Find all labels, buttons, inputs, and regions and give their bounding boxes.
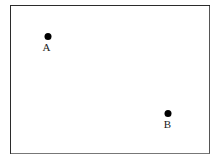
point-a: A	[44, 33, 51, 53]
point-a-label: A	[42, 42, 51, 53]
point-b-label: B	[164, 119, 172, 130]
point-b: B	[165, 110, 172, 130]
point-b-marker-icon	[165, 110, 172, 117]
point-a-marker-icon	[44, 33, 51, 40]
figure-canvas: A B	[0, 0, 219, 162]
rectangle-border	[10, 5, 210, 154]
